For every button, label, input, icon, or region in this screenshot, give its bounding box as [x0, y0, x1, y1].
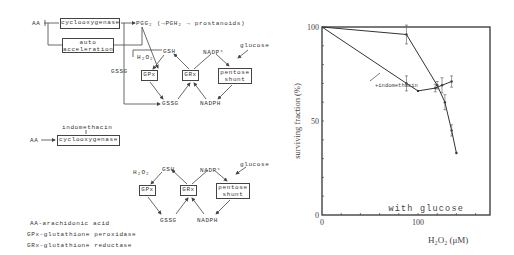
y-tick-label: 0 [315, 211, 319, 220]
survival-chart: 0100050100 with glucose +indomethacin H₂… [0, 0, 514, 255]
y-axis-label: surviving fraction (%) [292, 83, 302, 159]
data-point [417, 90, 419, 92]
series-label-pointer [370, 73, 380, 81]
x-tick-label: 0 [320, 218, 324, 227]
x-tick-label: 100 [412, 218, 424, 227]
chart-annotation: with glucose [388, 204, 464, 214]
series-line-control [322, 27, 456, 153]
indomethacin-series-label: +indomethacin [375, 82, 418, 89]
data-point [455, 152, 457, 154]
y-tick-label: 100 [307, 23, 319, 32]
y-tick-label: 50 [311, 117, 319, 126]
x-axis-label: H₂O₂ (μM) [428, 235, 468, 245]
plot-frame [322, 27, 490, 215]
